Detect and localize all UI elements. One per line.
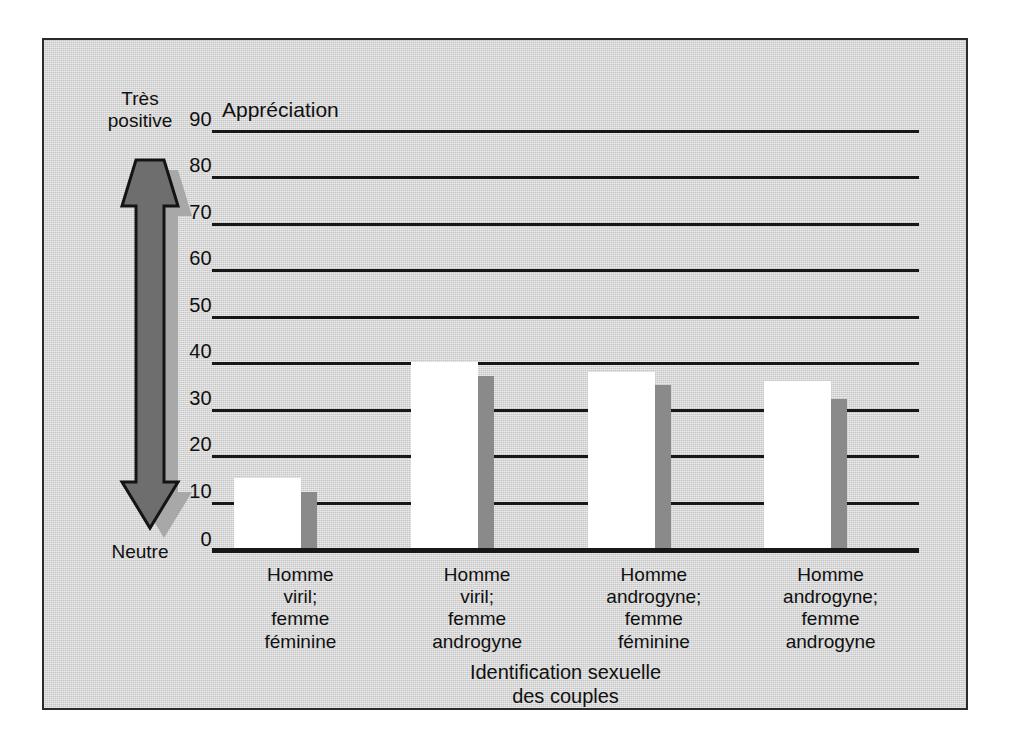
category-label: Homme androgyne; femme féminine [566, 564, 743, 653]
gridline-0: 0 [212, 548, 919, 553]
bar-primary [764, 381, 831, 548]
bar-primary [411, 362, 478, 548]
bar-secondary [831, 399, 847, 548]
bar-primary [234, 478, 301, 548]
x-axis-title: Identification sexuelle des couples [212, 660, 919, 708]
bar-group [411, 130, 494, 548]
bar-secondary [301, 492, 317, 548]
bar-primary [588, 372, 655, 548]
category-label: Homme viril; femme féminine [212, 564, 389, 653]
bar-group [234, 130, 317, 548]
y-tick-label-90: 90 [166, 109, 212, 129]
y-tick-label-30: 30 [166, 388, 212, 408]
bar-group [764, 130, 847, 548]
y-tick-label-0: 0 [166, 529, 212, 549]
bar-secondary [655, 385, 671, 548]
bar-secondary [478, 376, 494, 548]
chart-panel: Appréciation Très positive Neutre 010203… [42, 38, 968, 710]
plot-area: 0102030405060708090 Homme viril; femme f… [212, 130, 919, 548]
y-tick-label-20: 20 [166, 434, 212, 454]
y-tick-label-60: 60 [166, 248, 212, 268]
y-tick-label-70: 70 [166, 202, 212, 222]
y-tick-label-80: 80 [166, 155, 212, 175]
y-axis-title: Appréciation [222, 98, 339, 122]
category-label: Homme viril; femme androgyne [389, 564, 566, 653]
bar-group [588, 130, 671, 548]
y-tick-label-50: 50 [166, 295, 212, 315]
y-tick-label-10: 10 [166, 481, 212, 501]
y-tick-label-40: 40 [166, 341, 212, 361]
category-label: Homme androgyne; femme androgyne [742, 564, 919, 653]
